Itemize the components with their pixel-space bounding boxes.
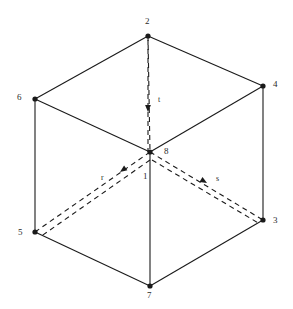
vertex-label-6: 6 (17, 93, 22, 102)
edge-6-8 (35, 99, 150, 152)
axis-label-s: s (216, 175, 219, 183)
vertex-dot-7 (147, 283, 152, 288)
edge-8-3-hidden (150, 152, 263, 220)
vertex-dot-8 (147, 149, 152, 154)
edge-6-2 (35, 36, 148, 99)
edge-2-4 (148, 36, 263, 86)
edge-7-3 (150, 220, 263, 286)
vertex-label-8: 8 (164, 147, 169, 156)
vertex-dot-6 (32, 96, 37, 101)
dashed-edges-group (35, 36, 263, 232)
vertex-label-5: 5 (18, 228, 23, 237)
edge-5-7 (35, 232, 150, 286)
axis-t-arrowhead (145, 105, 151, 112)
axis-s-line (152, 160, 260, 224)
vertex-label-3: 3 (273, 216, 278, 225)
vertex-dot-4 (260, 83, 265, 88)
axis-r-line (40, 160, 150, 237)
axis-label-t: t (158, 96, 160, 104)
vertex-label-2: 2 (145, 17, 150, 26)
cube-drawing (0, 0, 293, 309)
vertex-dot-5 (32, 229, 37, 234)
axis-label-r: r (101, 174, 104, 182)
vertex-label-7: 7 (147, 291, 152, 300)
edge-8-4 (150, 86, 263, 152)
cube-diagram-figure: 26481537rst (0, 0, 293, 309)
vertex-label-1: 1 (143, 172, 148, 181)
edge-8-5-hidden (35, 152, 150, 232)
axis-r-arrowhead (120, 166, 127, 172)
vertex-label-4: 4 (273, 80, 278, 89)
vertex-dot-3 (260, 217, 265, 222)
vertex-dot-2 (145, 33, 150, 38)
